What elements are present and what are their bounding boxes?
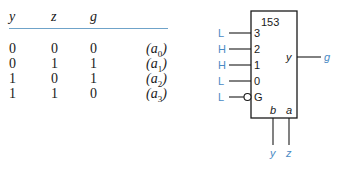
level-3: L (218, 27, 224, 39)
input-lines (229, 33, 321, 145)
level-2: H (218, 43, 226, 55)
pin-g: G (254, 91, 263, 103)
level-0: L (218, 75, 224, 87)
pin-b: b (270, 104, 276, 116)
pin-2: 2 (254, 43, 260, 55)
chip-name: 153 (261, 16, 279, 28)
pin-1: 1 (254, 59, 260, 71)
level-g: L (218, 91, 224, 103)
mux-diagram: 153 3 2 1 0 G y b a L H H L L g y z (0, 0, 352, 170)
signal-z: z (285, 147, 292, 159)
level-1: H (218, 59, 226, 71)
pin-y: y (285, 51, 293, 63)
pin-3: 3 (254, 27, 260, 39)
signal-g: g (324, 51, 331, 63)
pin-0: 0 (254, 75, 260, 87)
inversion-bubble-icon (244, 94, 251, 101)
signal-y: y (269, 147, 277, 159)
pin-a: a (286, 104, 292, 116)
